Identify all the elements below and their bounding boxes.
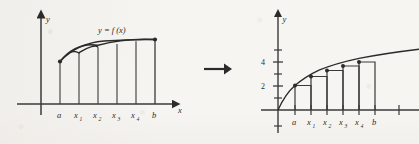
right-dot-x1 bbox=[309, 75, 313, 79]
right-tick-x2: x bbox=[322, 117, 327, 127]
rect-1 bbox=[295, 86, 311, 111]
right-tick-x4: x bbox=[354, 117, 359, 127]
right-tick-x3-sub: 3 bbox=[344, 123, 348, 129]
right-tick-x4-sub: 4 bbox=[361, 123, 364, 129]
rect-2 bbox=[311, 77, 327, 111]
right-tick-x1: x bbox=[306, 117, 311, 127]
right-ytick-label-4: 4 bbox=[261, 58, 265, 67]
left-tick-x2-sub: 2 bbox=[99, 116, 102, 122]
left-x-tick-labels: a x 1 x 2 x 3 x 4 b bbox=[57, 110, 156, 122]
left-dot-a bbox=[58, 59, 62, 63]
right-dot-x4 bbox=[357, 60, 361, 64]
figure-canvas: y x y = f (x) a x 1 x 2 x 3 x 4 bbox=[0, 0, 419, 144]
right-tick-x2-sub: 2 bbox=[329, 123, 332, 129]
right-y-axis-label: y bbox=[282, 14, 287, 24]
right-dot-x3 bbox=[341, 64, 345, 68]
left-tick-x4: x bbox=[130, 110, 135, 120]
left-tick-x4-sub: 4 bbox=[137, 116, 140, 122]
rect-5 bbox=[359, 62, 375, 110]
right-tick-x1-sub: 1 bbox=[313, 123, 316, 129]
left-tick-b: b bbox=[152, 110, 156, 120]
left-tick-a: a bbox=[57, 110, 61, 120]
right-dot-x2 bbox=[325, 69, 329, 73]
right-panel: y 2 4 bbox=[237, 0, 419, 144]
right-tick-a: a bbox=[292, 117, 296, 127]
right-dot-a bbox=[293, 84, 297, 88]
right-ytick-label-2: 2 bbox=[261, 82, 265, 91]
left-tick-x3: x bbox=[111, 110, 116, 120]
rect-3 bbox=[327, 71, 343, 111]
left-tick-x3-sub: 3 bbox=[117, 116, 121, 122]
left-curve-label: y = f (x) bbox=[97, 25, 126, 35]
right-arrow-icon bbox=[204, 64, 232, 75]
left-x-axis-label: x bbox=[177, 105, 182, 115]
right-tick-b: b bbox=[372, 117, 376, 127]
left-tick-x2: x bbox=[92, 110, 97, 120]
left-tick-x1: x bbox=[73, 110, 78, 120]
right-x-tick-labels: a x 1 x 2 x 3 x 4 b bbox=[292, 117, 376, 129]
rect-4 bbox=[343, 66, 359, 110]
right-curve bbox=[278, 49, 419, 110]
left-tick-x1-sub: 1 bbox=[80, 116, 83, 122]
transition-arrow-group bbox=[198, 0, 238, 144]
right-tick-x3: x bbox=[338, 117, 343, 127]
left-panel: y x y = f (x) a x 1 x 2 x 3 x 4 bbox=[0, 0, 205, 144]
left-y-axis-label: y bbox=[45, 14, 50, 24]
left-dot-b bbox=[153, 37, 157, 41]
riemann-rectangles bbox=[295, 62, 375, 110]
